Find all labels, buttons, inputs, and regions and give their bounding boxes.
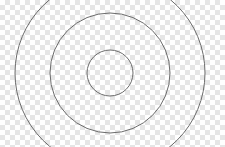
middle-circle	[50, 13, 170, 133]
outer-circle	[15, 0, 205, 147]
cropped-caption-text: …	[0, 140, 9, 147]
concentric-circles-graphic	[0, 0, 225, 147]
inner-circle	[87, 50, 133, 96]
